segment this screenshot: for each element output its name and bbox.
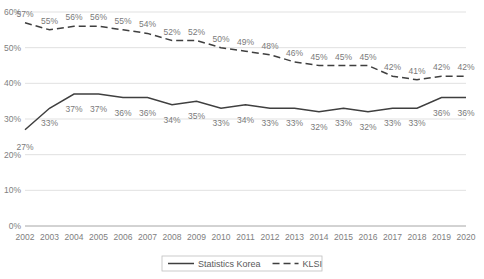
data-label: 56% <box>90 12 107 22</box>
data-label: 33% <box>408 118 425 128</box>
x-tick-label: 2009 <box>187 232 206 242</box>
x-tick-label: 2012 <box>261 232 280 242</box>
x-tick-label: 2002 <box>16 232 35 242</box>
data-label: 33% <box>384 118 401 128</box>
data-label: 42% <box>433 62 450 72</box>
x-tick-label: 2004 <box>65 232 84 242</box>
data-label: 55% <box>41 16 58 26</box>
data-label: 42% <box>384 62 401 72</box>
x-tick-label: 2007 <box>138 232 157 242</box>
data-label: 41% <box>408 66 425 76</box>
x-tick-label: 2010 <box>212 232 231 242</box>
data-label: 37% <box>65 104 82 114</box>
data-label: 33% <box>286 118 303 128</box>
data-label: 56% <box>65 12 82 22</box>
data-label: 32% <box>310 122 327 132</box>
data-label: 55% <box>114 16 131 26</box>
data-label: 34% <box>237 115 254 125</box>
data-label: 36% <box>114 108 131 118</box>
data-label: 45% <box>335 52 352 62</box>
data-label: 33% <box>335 118 352 128</box>
data-label: 57% <box>16 9 33 19</box>
y-tick-label: 30% <box>4 114 21 124</box>
data-label: 33% <box>41 118 58 128</box>
chart-canvas: 0%10%20%30%40%50%60% 2002200320042005200… <box>0 0 484 279</box>
data-label: 36% <box>457 108 474 118</box>
x-tick-label: 2016 <box>359 232 378 242</box>
data-label: 36% <box>139 108 156 118</box>
data-label: 52% <box>163 27 180 37</box>
y-axis-tick-labels: 0%10%20%30%40%50%60% <box>4 7 21 231</box>
data-label: 34% <box>163 115 180 125</box>
data-label: 45% <box>310 52 327 62</box>
x-tick-label: 2006 <box>114 232 133 242</box>
legend-label-1: Statistics Korea <box>198 259 261 269</box>
data-label: 46% <box>286 48 303 58</box>
x-tick-label: 2020 <box>457 232 476 242</box>
data-label: 32% <box>359 122 376 132</box>
x-tick-label: 2008 <box>163 232 182 242</box>
chart-legend: Statistics KoreaKLSI <box>162 256 322 271</box>
x-tick-label: 2013 <box>285 232 304 242</box>
data-label: 42% <box>457 62 474 72</box>
line-chart: 0%10%20%30%40%50%60% 2002200320042005200… <box>0 0 484 279</box>
x-tick-label: 2019 <box>432 232 451 242</box>
y-tick-label: 0% <box>9 221 22 231</box>
data-label: 45% <box>359 52 376 62</box>
y-tick-label: 40% <box>4 78 21 88</box>
data-label: 52% <box>188 27 205 37</box>
x-tick-label: 2017 <box>383 232 402 242</box>
data-label: 54% <box>139 19 156 29</box>
x-tick-label: 2011 <box>236 232 255 242</box>
y-tick-label: 10% <box>4 185 21 195</box>
x-tick-label: 2015 <box>334 232 353 242</box>
x-tick-label: 2003 <box>40 232 59 242</box>
data-point-labels: 27%33%37%37%36%36%34%35%33%34%33%33%32%3… <box>16 9 474 152</box>
x-tick-label: 2014 <box>310 232 329 242</box>
data-label: 36% <box>433 108 450 118</box>
data-label: 50% <box>212 34 229 44</box>
data-label: 48% <box>261 41 278 51</box>
data-label: 49% <box>237 37 254 47</box>
data-label: 27% <box>16 142 33 152</box>
data-label: 35% <box>188 111 205 121</box>
x-tick-label: 2005 <box>89 232 108 242</box>
legend-label-2: KLSI <box>303 259 323 269</box>
y-tick-label: 50% <box>4 43 21 53</box>
x-tick-label: 2018 <box>408 232 427 242</box>
x-axis-tick-labels: 2002200320042005200620072008200920102011… <box>16 232 476 242</box>
data-label: 33% <box>261 118 278 128</box>
data-label: 33% <box>212 118 229 128</box>
data-label: 37% <box>90 104 107 114</box>
